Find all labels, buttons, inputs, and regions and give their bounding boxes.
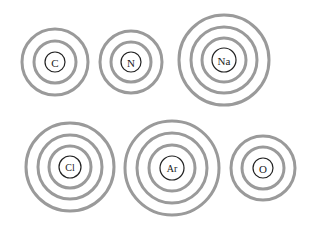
element-symbol-label: C [51,57,58,69]
atom-diagram-canvas: CNNaClArO [0,0,309,233]
atom-oxygen: O [226,131,300,205]
element-symbol-label: Na [218,55,231,67]
element-symbol-label: N [127,57,135,69]
element-symbol-label: O [259,163,267,175]
atom-chlorine: Cl [21,118,119,216]
element-symbol-label: Ar [167,163,178,174]
element-symbol-label: Cl [65,162,75,173]
atom-sodium: Na [174,10,274,110]
atom-argon: Ar [120,116,224,220]
atom-nitrogen: N [95,26,167,98]
atom-carbon: C [17,24,93,100]
